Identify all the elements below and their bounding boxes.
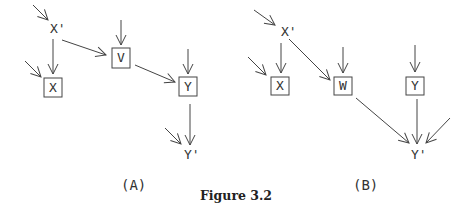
node-a-y: Y (179, 77, 197, 96)
node-b-x: X (271, 77, 289, 95)
edge-a-exo-xprime (33, 5, 48, 20)
panel-a-label: (A) (121, 177, 146, 193)
node-b-y: Y (406, 77, 424, 95)
svg-text:Y: Y (184, 79, 192, 94)
svg-text:Y: Y (411, 78, 419, 93)
panel-b-label: (B) (353, 177, 378, 193)
node-a-y-prime: Y' (184, 147, 200, 162)
edge-a-exo-x (25, 61, 41, 77)
edge-a-xprime-v (62, 40, 106, 55)
edge-a-v-y (135, 65, 175, 82)
edge-b-exo-x (248, 57, 266, 75)
node-b-y-prime: Y' (411, 147, 427, 162)
svg-text:V: V (117, 50, 125, 65)
figure-canvas: X' X V Y Y' (0, 0, 470, 211)
edge-b-exo-yprime (426, 118, 450, 143)
svg-text:W: W (339, 78, 347, 93)
node-b-x-prime: X' (281, 24, 297, 39)
edge-b-xprime-w (289, 39, 330, 80)
panel-b: X' X W Y Y' (248, 10, 450, 193)
edge-b-w-yprime (356, 98, 409, 143)
svg-text:X: X (276, 78, 284, 93)
node-a-v: V (112, 48, 130, 68)
node-a-x-prime: X' (50, 21, 66, 36)
node-b-w: W (334, 77, 352, 95)
figure-caption: Figure 3.2 (200, 188, 272, 203)
edge-b-exo-xprime (254, 10, 275, 25)
node-a-x: X (44, 78, 62, 97)
edge-a-exo-yprime (165, 128, 181, 144)
panel-a: X' X V Y Y' (25, 5, 200, 193)
svg-text:X: X (49, 80, 57, 95)
